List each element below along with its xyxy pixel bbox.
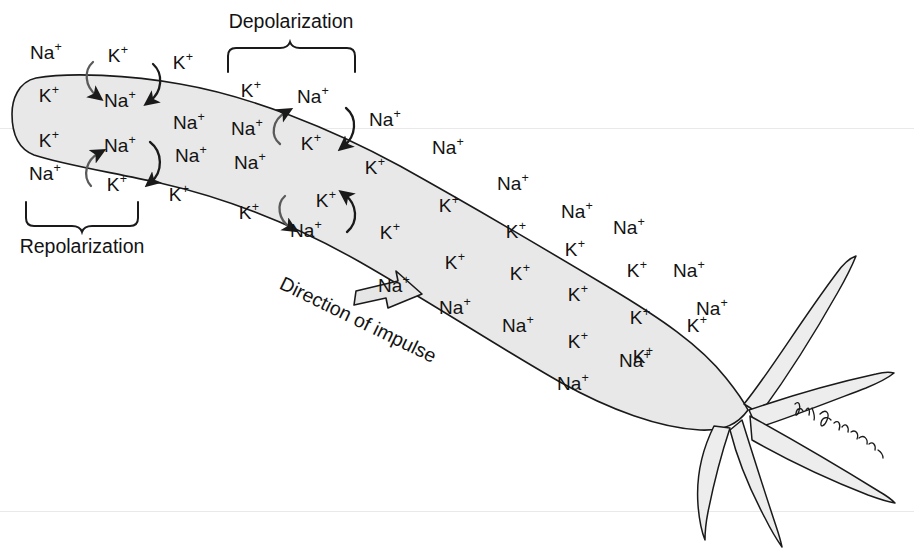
ion-label-k-19: K+ (365, 158, 385, 177)
ion-label-k-34: K+ (627, 261, 647, 280)
axon-artwork (0, 0, 914, 548)
ion-label-k-21: K+ (239, 203, 259, 222)
ion-label-na-30: Na+ (439, 298, 471, 317)
ion-label-na-0: Na+ (30, 43, 62, 62)
ion-label-na-22: Na+ (290, 221, 322, 240)
ion-label-na-13: Na+ (175, 146, 207, 165)
ion-label-k-38: K+ (630, 308, 650, 327)
ion-label-k-2: K+ (173, 53, 193, 72)
ion-label-na-33: Na+ (613, 218, 645, 237)
ion-label-na-40: Na+ (557, 374, 589, 393)
ion-label-na-44: Na+ (696, 299, 728, 318)
ion-label-na-25: Na+ (497, 174, 529, 193)
ion-label-k-27: K+ (506, 222, 526, 241)
ion-label-k-16: K+ (107, 175, 127, 194)
ion-label-k-31: K+ (565, 240, 585, 259)
label-depolarization: Depolarization (229, 12, 354, 32)
label-repolarization: Repolarization (20, 237, 145, 257)
ion-label-k-24: K+ (380, 223, 400, 242)
ion-label-na-7: Na+ (231, 119, 263, 138)
ion-label-na-29: Na+ (378, 276, 410, 295)
ion-label-na-18: Na+ (432, 138, 464, 157)
ion-label-na-26: Na+ (561, 202, 593, 221)
ion-label-k-35: K+ (568, 285, 588, 304)
ion-label-na-9: Na+ (369, 110, 401, 129)
ion-label-k-43: K+ (633, 347, 653, 366)
ion-label-na-36: Na+ (502, 316, 534, 335)
ion-label-k-10: K+ (301, 134, 321, 153)
ion-label-k-20: K+ (316, 191, 336, 210)
bracket-depolarization (228, 42, 355, 72)
ion-label-na-4: Na+ (104, 91, 136, 110)
ion-label-k-28: K+ (445, 253, 465, 272)
ion-label-k-11: K+ (39, 131, 59, 150)
ion-label-na-12: Na+ (104, 136, 136, 155)
ion-label-na-14: Na+ (234, 153, 266, 172)
ion-label-na-15: Na+ (29, 164, 61, 183)
ion-label-k-39: K+ (568, 332, 588, 351)
bracket-repolarization (26, 202, 138, 232)
ion-label-na-8: Na+ (297, 87, 329, 106)
ion-label-k-5: K+ (241, 81, 261, 100)
ion-label-k-17: K+ (169, 185, 189, 204)
ion-label-k-23: K+ (439, 196, 459, 215)
ion-label-k-32: K+ (510, 264, 530, 283)
ion-label-na-37: Na+ (673, 261, 705, 280)
ion-label-k-3: K+ (39, 86, 59, 105)
ion-label-k-1: K+ (108, 46, 128, 65)
ion-label-na-6: Na+ (173, 113, 205, 132)
nerve-impulse-diagram: Depolarization Repolarization Direction … (0, 0, 914, 548)
